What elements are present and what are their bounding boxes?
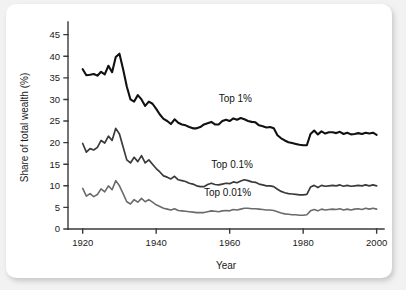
y-axis-tick-label: 30 [49, 94, 60, 105]
figure-root: 05101520253035404519201940196019802000To… [0, 0, 406, 290]
series-annotation: Top 1% [219, 93, 252, 104]
series-annotation: Top 0.1% [211, 159, 253, 170]
y-axis-tick-label: 35 [49, 72, 60, 83]
wealth-share-line-chart: 05101520253035404519201940196019802000To… [6, 4, 392, 278]
x-axis-tick-label: 2000 [366, 237, 387, 248]
x-axis-title: Year [216, 260, 237, 271]
chart-card: 05101520253035404519201940196019802000To… [6, 4, 392, 278]
x-axis-tick-label: 1940 [146, 237, 167, 248]
y-axis-tick-label: 40 [49, 51, 60, 62]
y-axis-title: Share of total wealth (%) [19, 73, 30, 183]
y-axis-tick-label: 10 [49, 180, 60, 191]
x-axis-tick-label: 1960 [219, 237, 240, 248]
y-axis-tick-label: 20 [49, 137, 60, 148]
y-axis-tick-label: 25 [49, 115, 60, 126]
series-annotation: Top 0.01% [204, 187, 251, 198]
x-axis-tick-label: 1920 [72, 237, 93, 248]
y-axis-tick-label: 45 [49, 29, 60, 40]
y-axis-tick-label: 15 [49, 159, 60, 170]
y-axis-tick-label: 5 [55, 202, 60, 213]
x-axis-tick-label: 1980 [293, 237, 314, 248]
chart-area: 05101520253035404519201940196019802000To… [6, 4, 392, 278]
y-axis-tick-label: 0 [55, 223, 60, 234]
